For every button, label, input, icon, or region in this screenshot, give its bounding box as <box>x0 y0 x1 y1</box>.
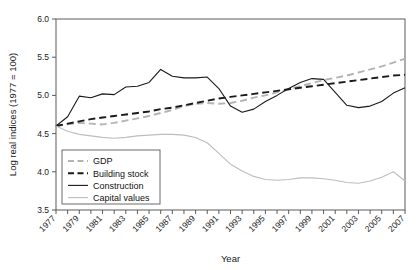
x-tick-label: 1985 <box>130 213 151 234</box>
legend-label-building-stock: Building stock <box>93 169 149 179</box>
series-line-gdp <box>56 59 405 126</box>
x-tick-label: 1993 <box>223 213 244 234</box>
legend-label-gdp: GDP <box>93 156 113 166</box>
y-tick-label: 5.0 <box>37 90 49 100</box>
y-tick-label: 4.5 <box>37 129 49 139</box>
x-tick-label: 1987 <box>153 213 174 234</box>
x-tick-label: 2001 <box>316 213 337 234</box>
chart-figure: 3.54.04.55.05.56.01977197919811983198519… <box>0 0 419 270</box>
x-tick-label: 1991 <box>200 213 221 234</box>
y-tick-label: 6.0 <box>37 14 49 24</box>
series-line-building-stock <box>56 75 405 126</box>
x-tick-label: 1983 <box>107 213 128 234</box>
y-tick-label: 4.0 <box>37 167 49 177</box>
x-tick-label: 1989 <box>177 213 198 234</box>
y-tick-label: 5.5 <box>37 52 49 62</box>
chart-legend: GDPBuilding stockConstructionCapital val… <box>62 150 160 204</box>
x-tick-label: 2005 <box>363 213 384 234</box>
legend-label-capital-values: Capital values <box>93 193 150 203</box>
legend-label-construction: Construction <box>93 181 144 191</box>
y-tick-label: 3.5 <box>37 205 49 215</box>
x-tick-label: 1997 <box>270 213 291 234</box>
x-tick-label: 2003 <box>339 213 360 234</box>
x-tick-label: 1979 <box>60 213 81 234</box>
x-tick-label: 1995 <box>246 213 267 234</box>
x-tick-label: 1981 <box>83 213 104 234</box>
x-tick-label: 1977 <box>37 213 58 234</box>
chart-canvas: 3.54.04.55.05.56.01977197919811983198519… <box>0 0 419 270</box>
x-tick-label: 2007 <box>386 213 407 234</box>
y-axis-title: Log real indices (1977 = 100) <box>7 53 18 176</box>
x-tick-label: 1999 <box>293 213 314 234</box>
line-chart: 3.54.04.55.05.56.01977197919811983198519… <box>0 0 419 270</box>
x-axis-title: Year <box>221 253 240 264</box>
